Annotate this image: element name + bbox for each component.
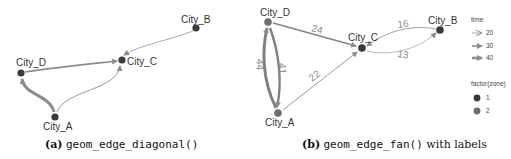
caption-b: (b) geom_edge_fan() with labels <box>302 137 487 151</box>
label-city-c: City_C <box>127 56 157 67</box>
edge-a-c <box>283 52 357 110</box>
edge-label-44: 44 <box>254 59 265 71</box>
edge-label-13: 13 <box>397 48 410 61</box>
label-city-b: City_B <box>181 14 211 25</box>
label-city-a: City_A <box>43 121 73 132</box>
panel-b: 24 16 13 22 44 41 City_A City_B City_C C… <box>254 7 458 128</box>
legend-time-20: 20 <box>486 29 494 36</box>
label-city-d: City_D <box>16 57 46 68</box>
node-city-d <box>17 69 24 76</box>
label-city-b: City_B <box>428 15 458 26</box>
legend-zone-title: factor(zone) <box>471 80 506 88</box>
node-city-c <box>118 56 125 63</box>
node-city-b <box>192 24 199 31</box>
legend-zone-2: 2 <box>486 107 490 114</box>
label-city-c: City_C <box>348 32 378 43</box>
figure: City_A City_B City_C City_D 24 16 13 22 … <box>0 0 511 159</box>
legend-time-title: time <box>471 16 484 23</box>
label-city-a: City_A <box>265 117 295 128</box>
caption-a-code: geom_edge_diagonal() <box>66 138 198 151</box>
edge-a-c <box>57 66 120 112</box>
edge-label-41: 41 <box>276 63 287 75</box>
node-city-b <box>436 26 444 34</box>
caption-a: (a) geom_edge_diagonal() <box>45 137 198 151</box>
legend-zone-2-point <box>474 108 481 115</box>
legend: time 20 30 40 factor(zone) 1 2 <box>471 16 506 114</box>
legend-zone-1-point <box>474 95 481 102</box>
node-city-d <box>264 18 272 26</box>
node-city-c <box>358 44 366 52</box>
edge-b-c <box>124 31 193 55</box>
caption-a-tag: (a) <box>45 138 63 151</box>
legend-zone-1: 1 <box>486 94 490 101</box>
node-city-a <box>274 109 282 117</box>
legend-time-40: 40 <box>486 54 494 61</box>
legend-time-30: 30 <box>486 42 494 49</box>
panel-a: City_A City_B City_C City_D <box>16 14 211 132</box>
caption-b-code: geom_edge_fan() <box>323 138 422 151</box>
edge-a-d <box>22 79 54 112</box>
caption-b-suffix: with labels <box>423 138 487 151</box>
label-city-d: City_D <box>260 7 290 18</box>
caption-b-tag: (b) <box>302 138 320 151</box>
edge-label-16: 16 <box>397 17 410 30</box>
node-city-a <box>51 113 58 120</box>
